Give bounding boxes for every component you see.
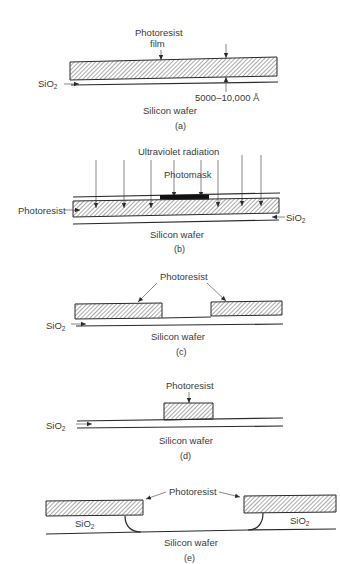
wafer-surface-left xyxy=(46,532,141,534)
sio2-top-line-exposed xyxy=(162,317,211,318)
photoresist-label: Photoresist xyxy=(160,271,208,282)
sio2-label: SiO2 xyxy=(286,212,306,224)
etched-wafer-surface xyxy=(141,530,248,532)
panel-d: Photoresist SiO2 Silicon wafer (d) xyxy=(46,380,283,461)
caption-d: (d) xyxy=(180,451,191,461)
wafer-label: Silicon wafer xyxy=(159,435,213,446)
sio2-label-left: SiO2 xyxy=(75,518,95,530)
photoresist-label: Photoresist xyxy=(18,205,66,216)
panel-a: Photoresist film SiO2 5000–10,000 Å Sili… xyxy=(38,27,278,131)
photoresist-label: Photoresist xyxy=(169,486,217,497)
sio2-bottom-line xyxy=(77,426,283,428)
photoresist-arrow-icon xyxy=(219,492,240,497)
caption-b: (b) xyxy=(174,244,185,254)
caption-e: (e) xyxy=(184,553,195,563)
sio2-bottom-line xyxy=(76,324,283,326)
photoresist-layer xyxy=(73,198,279,217)
sio2-label: SiO2 xyxy=(46,320,66,332)
wafer-label: Silicon wafer xyxy=(143,105,197,116)
photoresist-block-left xyxy=(75,303,162,319)
panel-c: Photoresist SiO2 Silicon wafer (c) xyxy=(46,271,283,357)
photoresist-arrow-icon xyxy=(146,492,166,499)
caption-a: (a) xyxy=(175,121,186,131)
photoresist-block-right xyxy=(211,301,282,316)
wafer-label: Silicon wafer xyxy=(164,537,218,548)
panel-b: Ultraviolet radiation Photomask Photores… xyxy=(18,146,306,254)
photoresist-arrow-icon xyxy=(207,283,226,301)
sio2-bottom-line xyxy=(73,220,279,224)
sio2-label: SiO2 xyxy=(46,420,66,432)
etch-undercut-right xyxy=(248,513,263,530)
sio2-bottom-line xyxy=(71,82,278,85)
sio2-label: SiO2 xyxy=(38,78,58,90)
photoresist-block-left xyxy=(46,500,143,516)
thickness-label: 5000–10,000 Å xyxy=(195,92,260,103)
panel-e: Photoresist SiO2 SiO2 Silicon wafer (e) xyxy=(46,486,336,563)
wafer-label: Silicon wafer xyxy=(151,331,205,342)
sio2-label-right: SiO2 xyxy=(290,515,310,527)
etch-undercut-left xyxy=(125,516,141,532)
wafer-label: Silicon wafer xyxy=(150,229,204,240)
film-label: film xyxy=(150,38,165,49)
caption-c: (c) xyxy=(176,347,187,357)
photoresist-arrow-icon xyxy=(138,283,157,302)
wafer-surface-right xyxy=(248,529,336,530)
photoresist-block-right xyxy=(244,495,336,513)
photoresist-block xyxy=(164,403,213,420)
photoresist-label: Photoresist xyxy=(135,27,183,38)
photoresist-label: Photoresist xyxy=(166,380,214,391)
photomask-label: Photomask xyxy=(164,169,212,180)
photolithography-diagram: Photoresist film SiO2 5000–10,000 Å Sili… xyxy=(0,0,340,564)
uv-label: Ultraviolet radiation xyxy=(138,146,219,157)
photoresist-film-layer xyxy=(70,57,277,80)
